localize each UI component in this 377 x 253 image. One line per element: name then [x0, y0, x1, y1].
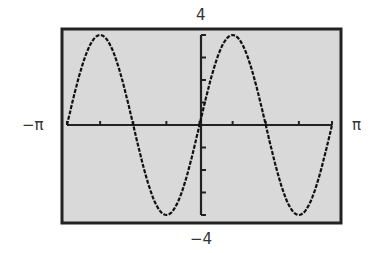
x-max-label: π: [352, 118, 361, 133]
y-max-label: 4: [196, 8, 206, 23]
y-min-label: −4: [190, 232, 212, 247]
graph-plot: [0, 0, 377, 253]
x-min-label: −π: [22, 118, 44, 133]
